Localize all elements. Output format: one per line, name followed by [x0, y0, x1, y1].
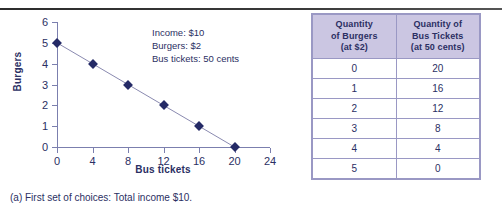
annotation-line-bus-tickets: Bus tickets: 50 cents — [152, 52, 239, 65]
x-tick-mark — [270, 148, 271, 153]
cell-quantity-burgers: 3 — [313, 118, 397, 138]
header-line-1: Quantity of — [413, 19, 462, 29]
y-tick-label: 4 — [42, 58, 48, 70]
cell-quantity-burgers: 2 — [313, 98, 397, 118]
table-row: 50 — [313, 158, 480, 178]
header-line-3: (at 50 cents) — [411, 42, 465, 52]
y-axis-title: Burgers — [12, 27, 23, 117]
x-tick-label: 20 — [228, 155, 240, 167]
x-tick-label: 8 — [125, 155, 131, 167]
cell-quantity-burgers: 4 — [313, 138, 397, 158]
cell-quantity-bus-tickets: 0 — [396, 158, 480, 178]
budget-constraint-chart: Burgers Bus tickets 012345604812162024 I… — [0, 10, 290, 205]
x-tick-mark — [199, 148, 200, 153]
table-header-row: Quantity of Burgers (at $2) Quantity of … — [313, 15, 480, 59]
chart-annotation: Income: $10 Burgers: $2 Bus tickets: 50 … — [152, 26, 239, 65]
table-row: 38 — [313, 118, 480, 138]
y-tick-label: 0 — [42, 141, 48, 153]
cell-quantity-bus-tickets: 12 — [396, 98, 480, 118]
annotation-line-burgers: Burgers: $2 — [152, 39, 239, 52]
x-tick-label: 24 — [264, 155, 276, 167]
cell-quantity-burgers: 5 — [313, 158, 397, 178]
quantity-table: Quantity of Burgers (at $2) Quantity of … — [311, 13, 481, 180]
table-row: 020 — [313, 58, 480, 78]
cell-quantity-burgers: 0 — [313, 58, 397, 78]
x-tick-mark — [57, 148, 58, 153]
cell-quantity-bus-tickets: 4 — [396, 138, 480, 158]
cell-quantity-bus-tickets: 16 — [396, 78, 480, 98]
header-line-1: Quantity — [336, 19, 373, 29]
x-tick-label: 12 — [157, 155, 169, 167]
x-tick-mark — [128, 148, 129, 153]
cell-quantity-bus-tickets: 8 — [396, 118, 480, 138]
table-row: 116 — [313, 78, 480, 98]
table-header-quantity-of-burgers: Quantity of Burgers (at $2) — [313, 15, 397, 59]
y-tick-mark — [52, 22, 57, 23]
annotation-line-income: Income: $10 — [152, 26, 239, 39]
table-body: 020116212384450 — [313, 58, 480, 179]
header-line-3: (at $2) — [341, 42, 368, 52]
header-line-2: of Burgers — [331, 31, 378, 41]
x-tick-mark — [164, 148, 165, 153]
x-tick-label: 0 — [54, 155, 60, 167]
x-tick-mark — [93, 148, 94, 153]
y-tick-label: 5 — [42, 37, 48, 49]
y-tick-label: 6 — [42, 16, 48, 28]
table-row: 212 — [313, 98, 480, 118]
y-tick-mark — [52, 64, 57, 65]
y-tick-mark — [52, 85, 57, 86]
header-line-2: Bus Tickets — [412, 31, 463, 41]
x-tick-label: 16 — [193, 155, 205, 167]
figure-caption: (a) First set of choices: Total income $… — [10, 192, 192, 203]
cell-quantity-bus-tickets: 20 — [396, 58, 480, 78]
x-tick-label: 4 — [89, 155, 95, 167]
table-header-quantity-of-bus-tickets: Quantity of Bus Tickets (at 50 cents) — [396, 15, 480, 59]
y-tick-mark — [52, 105, 57, 106]
table-row: 44 — [313, 138, 480, 158]
y-tick-label: 2 — [42, 99, 48, 111]
cell-quantity-burgers: 1 — [313, 78, 397, 98]
y-tick-mark — [52, 126, 57, 127]
y-tick-label: 1 — [42, 120, 48, 132]
y-tick-label: 3 — [42, 79, 48, 91]
